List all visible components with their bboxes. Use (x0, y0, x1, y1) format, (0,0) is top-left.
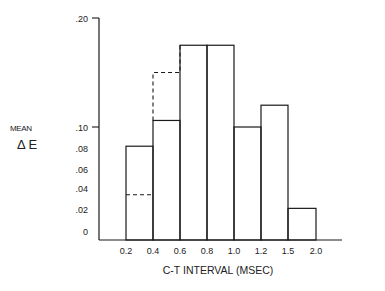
y-tick-label: .02 (75, 205, 88, 215)
histogram-bar (180, 45, 207, 240)
x-ticks: 0.20.40.60.81.01.21.52.0 (120, 246, 323, 256)
y-axis-label-delta-e: Δ E (17, 137, 38, 152)
dashed-bar-outline (153, 45, 180, 120)
x-tick-label: 2.0 (310, 246, 323, 256)
histogram-bar (234, 127, 261, 240)
x-tick-label: 0.6 (174, 246, 187, 256)
y-tick-label: .08 (75, 144, 88, 154)
x-tick-label: 1.2 (255, 246, 268, 256)
y-tick-label: .04 (75, 184, 88, 194)
y-tick-label: 0 (83, 227, 88, 237)
histogram-chart: .20.10.08.06.04.020 0.20.40.60.81.01.21.… (0, 0, 385, 291)
x-tick-label: 0.2 (120, 246, 133, 256)
y-tick-label: .10 (75, 123, 88, 133)
histogram-bar (126, 146, 153, 240)
y-axis-label-mean: MEAN (10, 124, 32, 133)
y-ticks: .20.10.08.06.04.020 (75, 14, 99, 237)
x-tick-label: 1.0 (228, 246, 241, 256)
x-tick-label: 1.5 (282, 246, 295, 256)
x-axis-label: C-T INTERVAL (MSEC) (163, 264, 273, 276)
histogram-bar (207, 45, 234, 240)
y-tick-label: .20 (75, 14, 88, 24)
x-tick-label: 0.4 (147, 246, 160, 256)
x-tick-label: 0.8 (201, 246, 214, 256)
bars (126, 45, 316, 240)
histogram-bar (261, 105, 288, 240)
histogram-bar (288, 208, 316, 240)
axes (99, 18, 342, 240)
y-tick-label: .06 (75, 165, 88, 175)
histogram-bar (153, 120, 180, 240)
